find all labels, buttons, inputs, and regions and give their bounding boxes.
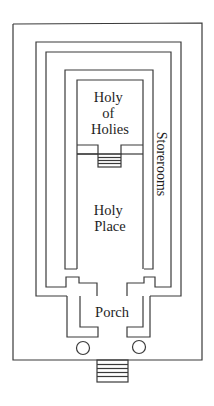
- partition-upper: [77, 145, 143, 154]
- storerooms-label: Storerooms: [154, 132, 169, 197]
- holy-of-holies-label: Holy of Holies: [91, 89, 129, 137]
- entrance-stairs: [97, 360, 128, 382]
- temple-floor-plan: Holy of Holies Holy Place Porch Storeroo…: [0, 0, 214, 406]
- porch-left-wall: [67, 296, 98, 337]
- inner-stairs: [98, 154, 121, 167]
- left-pillar: [77, 342, 90, 355]
- right-pillar: [133, 341, 146, 354]
- holy-place-label: Holy Place: [94, 202, 127, 234]
- porch-right-wall: [127, 296, 150, 337]
- porch-label: Porch: [95, 304, 130, 320]
